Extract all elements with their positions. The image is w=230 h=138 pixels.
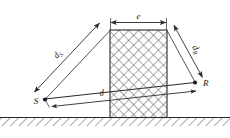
diagonal-hatch bbox=[0, 118, 230, 127]
barrier-diffraction-diagram: e dS dR d S bbox=[0, 0, 230, 138]
ground-line bbox=[0, 118, 230, 128]
figure-canvas: e dS dR d S bbox=[0, 0, 230, 138]
source-marker bbox=[43, 97, 47, 101]
receiver-point: R bbox=[193, 78, 209, 88]
dimension-arrow-ds bbox=[35, 23, 100, 92]
dimension-e: e bbox=[111, 11, 167, 31]
label-ds: dS bbox=[51, 48, 64, 61]
cross-hatch bbox=[110, 30, 167, 118]
label-dr: dR bbox=[189, 43, 203, 56]
source-point: S bbox=[34, 96, 47, 106]
barrier-block bbox=[110, 30, 167, 118]
label-s: S bbox=[34, 96, 39, 106]
label-e: e bbox=[137, 11, 141, 21]
label-r: R bbox=[202, 78, 209, 88]
path-dr: dR bbox=[167, 26, 203, 83]
receiver-marker bbox=[193, 80, 197, 84]
